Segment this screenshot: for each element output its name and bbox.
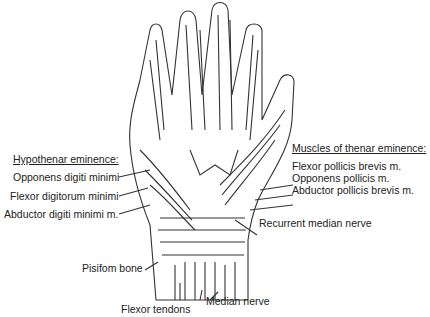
label-flexor-tendons: Flexor tendons [121, 304, 190, 315]
thenar-heading: Muscles of thenar eminence: [292, 143, 426, 154]
label-opponens-pollicis: Opponens pollicis m. [292, 173, 389, 184]
label-recurrent-median-nerve: Recurrent median nerve [259, 218, 372, 229]
label-abductor-digiti-minimi: Abductor digiti minimi m. [4, 209, 118, 220]
label-abductor-pollicis-brevis: Abductor pollicis brevis m. [292, 185, 414, 196]
label-pisiform-bone: Pisifom bone [82, 263, 143, 274]
label-flexor-pollicis-brevis: Flexor pollicis brevis m. [292, 161, 401, 172]
hypothenar-heading: Hypothenar eminence: [13, 154, 119, 165]
label-median-nerve: Median nerve [206, 296, 270, 307]
label-flexor-digitorum-minimi: Flexor digitorum minimi [10, 191, 119, 202]
label-opponens-digiti-minimi: Opponens digiti minimi [13, 172, 119, 183]
